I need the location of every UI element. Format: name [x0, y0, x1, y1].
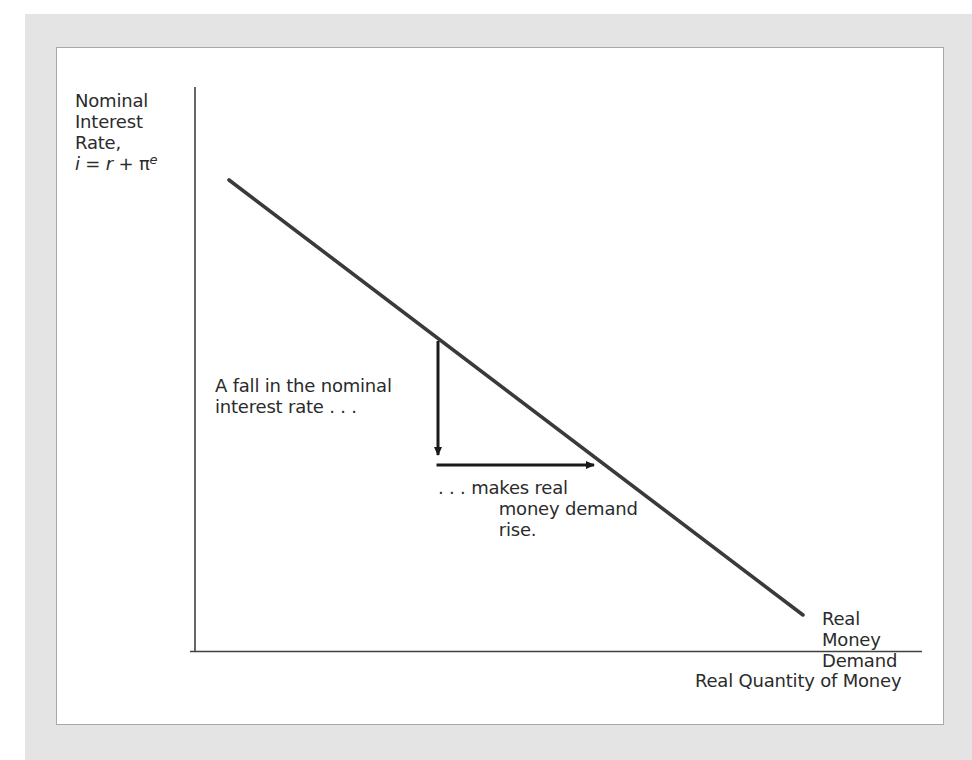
curve-label-line: Money [822, 629, 897, 650]
x-axis-label: Real Quantity of Money [695, 670, 901, 691]
y-axis-label: NominalInterestRate,i = r + πe [75, 90, 157, 174]
curve-label-line: Real [822, 608, 897, 629]
annotation-fall: A fall in the nominalinterest rate . . . [215, 375, 392, 417]
annotation-line: A fall in the nominal [215, 375, 392, 396]
curve-label-line: Demand [822, 650, 897, 671]
curve-label: RealMoneyDemand [822, 608, 897, 671]
annotation-line: interest rate . . . [215, 396, 392, 417]
y-axis-label-line: Nominal [75, 90, 157, 111]
formula-r: r [106, 153, 113, 174]
annotation-line: . . . makes real [438, 477, 638, 498]
y-axis-formula: i = r + πe [75, 153, 157, 174]
formula-superscript-e: e [150, 152, 158, 167]
y-axis-label-line: Rate, [75, 132, 157, 153]
y-axis-label-line: Interest [75, 111, 157, 132]
formula-plus: + [113, 153, 139, 174]
formula-pi: π [139, 153, 150, 174]
annotation-line: money demand [438, 498, 638, 519]
annotation-line: rise. [438, 519, 638, 540]
annotation-rise: . . . makes real money demand rise. [438, 477, 638, 540]
formula-equals: = [80, 153, 106, 174]
